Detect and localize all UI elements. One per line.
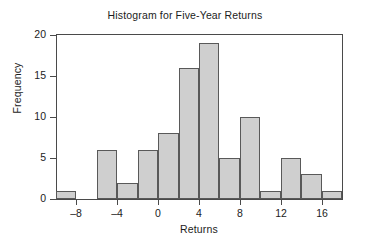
histogram-bar xyxy=(219,158,239,199)
x-tick-mark xyxy=(76,200,77,205)
chart-title: Histogram for Five-Year Returns xyxy=(0,9,370,21)
histogram-bar xyxy=(301,174,321,199)
x-tick-label: –4 xyxy=(97,207,137,219)
x-tick-mark xyxy=(117,200,118,205)
x-tick-mark xyxy=(199,200,200,205)
histogram-bar xyxy=(260,191,280,199)
x-tick-mark xyxy=(281,200,282,205)
y-tick-label: 20 xyxy=(12,28,46,40)
y-tick-label: 0 xyxy=(12,192,46,204)
histogram-bar xyxy=(179,68,199,199)
histogram-figure: Histogram for Five-Year Returns Frequenc… xyxy=(0,0,370,249)
histogram-bar xyxy=(281,158,301,199)
histogram-bar xyxy=(240,117,260,199)
y-tick-label: 15 xyxy=(12,69,46,81)
x-tick-label: 8 xyxy=(220,207,260,219)
y-tick-label: 5 xyxy=(12,151,46,163)
y-tick-label: 10 xyxy=(12,110,46,122)
x-axis-label: Returns xyxy=(56,223,342,235)
x-tick-label: 4 xyxy=(179,207,219,219)
histogram-bar xyxy=(117,183,137,199)
x-tick-mark xyxy=(240,200,241,205)
histogram-bar xyxy=(138,150,158,199)
y-axis-label: Frequency xyxy=(11,38,23,138)
histogram-bar xyxy=(199,43,219,199)
histogram-bar xyxy=(158,133,178,199)
histogram-bar xyxy=(97,150,117,199)
x-tick-label: 12 xyxy=(261,207,301,219)
x-tick-mark xyxy=(158,200,159,205)
histogram-bar xyxy=(322,191,342,199)
plot-frame-right xyxy=(342,34,343,200)
x-tick-mark xyxy=(322,200,323,205)
histogram-bar xyxy=(56,191,76,199)
x-tick-label: 16 xyxy=(302,207,342,219)
x-tick-label: 0 xyxy=(138,207,178,219)
x-tick-label: –8 xyxy=(56,207,96,219)
plot-area xyxy=(56,35,342,199)
y-tick-mark xyxy=(50,199,56,200)
